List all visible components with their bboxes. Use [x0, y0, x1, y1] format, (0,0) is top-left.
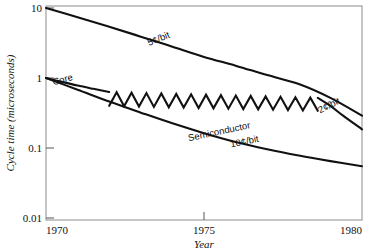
y-tick-label-10: 10 — [31, 2, 43, 14]
chart-canvas: 10 1 0.1 0.01 1970 1975 1980 Year Cycle … — [0, 0, 374, 252]
plot-frame — [46, 6, 362, 220]
chart-figure: 10 1 0.1 0.01 1970 1975 1980 Year Cycle … — [0, 0, 374, 252]
curve-core-oscillation — [109, 92, 318, 111]
y-axis-ticks — [46, 8, 54, 218]
y-tick-label-0-1: 0.1 — [28, 142, 42, 154]
x-tick-label-1970: 1970 — [46, 224, 69, 236]
y-axis-title: Cycle time (microseconds) — [4, 54, 17, 171]
x-tick-label-1975: 1975 — [193, 224, 216, 236]
y-tick-label-0-01: 0.01 — [23, 212, 42, 224]
x-axis-title: Year — [194, 238, 214, 250]
x-tick-label-1980: 1980 — [340, 224, 363, 236]
y-tick-label-1: 1 — [37, 72, 43, 84]
